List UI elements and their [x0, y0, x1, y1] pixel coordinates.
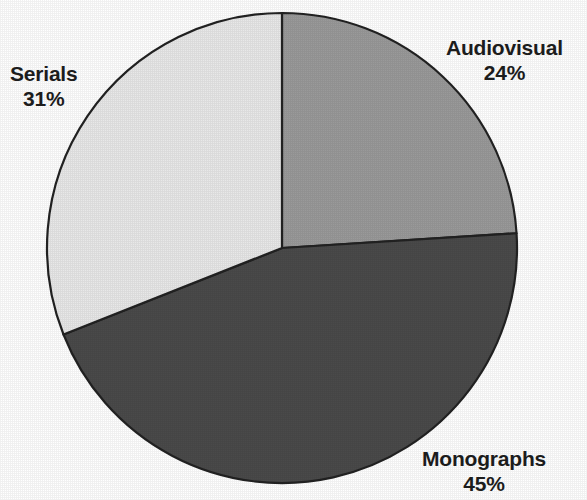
pie-label-serials-percent: 31% [10, 87, 78, 112]
pie-label-audiovisual: Audiovisual 24% [446, 36, 563, 86]
pie-label-monographs: Monographs 45% [422, 447, 546, 497]
pie-label-audiovisual-percent: 24% [446, 61, 563, 86]
pie-label-serials: Serials 31% [10, 62, 78, 112]
pie-label-monographs-percent: 45% [422, 472, 546, 497]
pie-label-serials-name: Serials [10, 62, 78, 87]
pie-label-audiovisual-name: Audiovisual [446, 36, 563, 61]
pie-label-monographs-name: Monographs [422, 447, 546, 472]
pie-chart-figure: Audiovisual 24% Serials 31% Monographs 4… [0, 0, 587, 500]
